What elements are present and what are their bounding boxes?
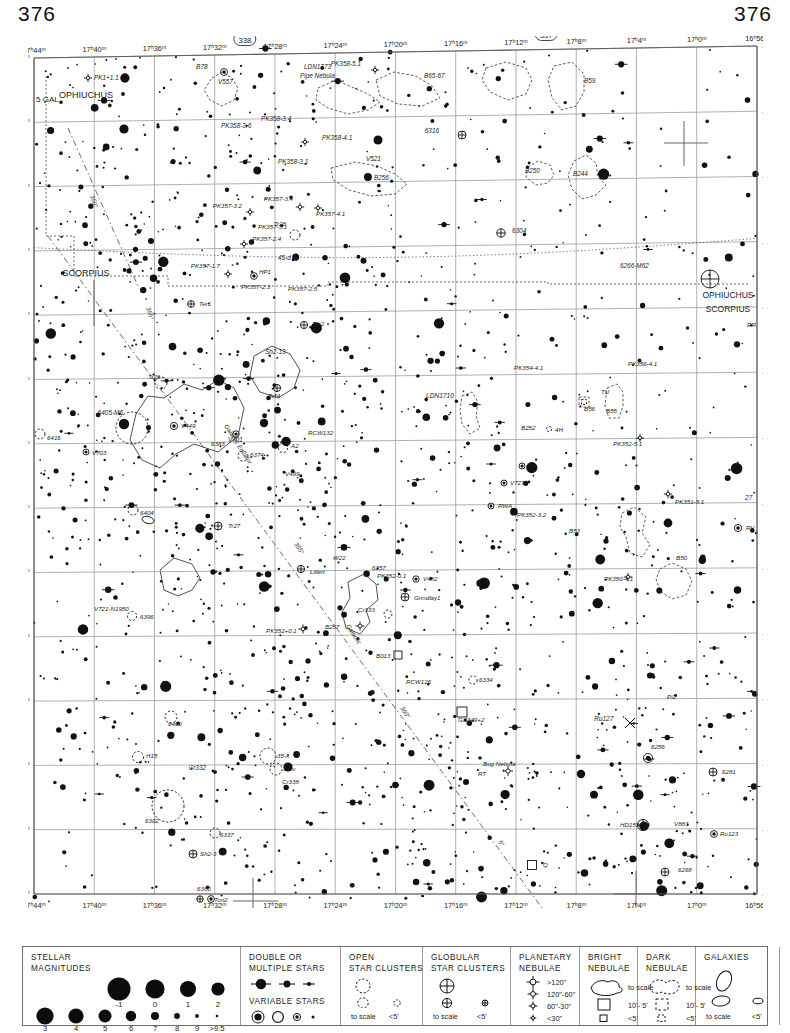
svg-text:-32°: -32° xyxy=(762,368,763,377)
svg-text:FV: FV xyxy=(528,462,537,469)
svg-text:6256: 6256 xyxy=(651,743,665,750)
svg-text:17ʰ36ᵐ: 17ʰ36ᵐ xyxy=(143,901,167,908)
svg-text:PK356-4.1: PK356-4.1 xyxy=(628,360,657,367)
svg-text:-29°: -29° xyxy=(28,183,30,192)
open-cluster-symbols xyxy=(349,978,415,1008)
svg-text:17ʰ16ᵐ: 17ʰ16ᵐ xyxy=(444,901,468,908)
svg-text:PK354-4.1: PK354-4.1 xyxy=(514,364,543,371)
svg-text:>9.5: >9.5 xyxy=(210,1024,225,1032)
svg-text:V883: V883 xyxy=(674,820,689,827)
svg-text:120"-60": 120"-60" xyxy=(547,990,576,999)
legend-title-line2: STAR CLUSTERS xyxy=(431,964,503,975)
svg-text:V449: V449 xyxy=(181,422,196,429)
legend-title-line2: NEBULAE xyxy=(588,964,630,975)
svg-text:17ʰ36ᵐ: 17ʰ36ᵐ xyxy=(143,44,167,53)
svg-text:PK352-0.1: PK352-0.1 xyxy=(377,572,406,579)
svg-text:PK357-1.7: PK357-1.7 xyxy=(191,262,221,269)
svg-text:A2: A2 xyxy=(290,442,299,449)
svg-text:6266-M62: 6266-M62 xyxy=(620,262,649,269)
legend-galaxies: GALAXIES to scale <5' xyxy=(696,947,780,1025)
svg-text:PK352+0.1: PK352+0.1 xyxy=(266,627,297,634)
svg-text:17ʰ4ᵐ: 17ʰ4ᵐ xyxy=(627,901,646,908)
svg-text:9: 9 xyxy=(195,1024,199,1032)
svg-text:6: 6 xyxy=(129,1024,133,1032)
svg-text:SCORPIUS: SCORPIUS xyxy=(706,304,751,314)
svg-text:Bug Nebula: Bug Nebula xyxy=(483,760,516,767)
svg-text:6396: 6396 xyxy=(140,613,154,620)
svg-text:B244: B244 xyxy=(573,170,588,177)
legend: STELLAR MAGNITUDES -10123456789>9.5 DOUB… xyxy=(22,946,768,1026)
legend-title: GALAXIES xyxy=(704,953,772,964)
svg-text:PK358-4.1: PK358-4.1 xyxy=(322,134,353,141)
svg-text:6383: 6383 xyxy=(211,440,225,447)
svg-text:6316: 6316 xyxy=(425,127,440,134)
svg-text:-28°: -28° xyxy=(28,118,30,127)
svg-text:4: 4 xyxy=(74,1024,78,1032)
svg-text:6404: 6404 xyxy=(140,509,154,516)
svg-text:34-υ: 34-υ xyxy=(283,765,296,772)
svg-text:W22: W22 xyxy=(333,554,346,561)
svg-text:-40°: -40° xyxy=(28,890,30,899)
svg-text:PK351-5.1: PK351-5.1 xyxy=(675,498,704,505)
legend-small-label: <5' xyxy=(389,1012,399,1021)
svg-text:-32°: -32° xyxy=(28,376,30,385)
svg-text:<5': <5' xyxy=(686,1014,696,1023)
svg-text:<30": <30" xyxy=(547,1014,563,1023)
legend-title-line1: STELLAR xyxy=(31,953,233,964)
variable-star-symbols xyxy=(249,1009,335,1025)
legend-scale-label: to scale xyxy=(351,1012,376,1021)
svg-text:V721-N1950: V721-N1950 xyxy=(94,605,129,612)
svg-text:17ʰ32ᵐ: 17ʰ32ᵐ xyxy=(203,43,227,52)
svg-text:PK357-2.4: PK357-2.4 xyxy=(252,235,282,242)
legend-globular-clusters: GLOBULAR STAR CLUSTERS to scale <5' xyxy=(423,947,511,1025)
legend-title-line2: MAGNITUDES xyxy=(31,964,233,975)
svg-text:-27°: -27° xyxy=(28,54,30,63)
svg-text:Pi2: Pi2 xyxy=(667,693,677,700)
svg-text:TU: TU xyxy=(601,388,610,395)
svg-text:6400: 6400 xyxy=(168,720,182,727)
svg-text:V727: V727 xyxy=(510,479,525,486)
svg-text:Ter4: Ter4 xyxy=(268,392,281,399)
svg-text:Sh2-3: Sh2-3 xyxy=(200,850,217,857)
magnitude-scale-svg: -10123456789>9.5 xyxy=(31,974,243,1032)
svg-text:RR: RR xyxy=(747,321,756,328)
legend-title-line1: GLOBULAR xyxy=(431,953,503,964)
svg-text:Ter2: Ter2 xyxy=(312,320,325,327)
svg-text:-30°: -30° xyxy=(762,238,763,247)
svg-text:-1: -1 xyxy=(115,1000,123,1009)
svg-text:PK352-3.2: PK352-3.2 xyxy=(517,511,547,518)
svg-text:Lillert: Lillert xyxy=(310,568,325,575)
svg-text:27: 27 xyxy=(744,494,753,501)
legend-bright-nebulae: BRIGHT NEBULAE to scale10'- 5'<5' xyxy=(580,947,638,1025)
globular-cluster-symbols xyxy=(431,978,503,1008)
svg-text:-36°: -36° xyxy=(28,633,30,642)
svg-text:PK357-4.1: PK357-4.1 xyxy=(316,210,345,217)
sky-map[interactable]: 350°355°Galactic Equator355°Galactic360°… xyxy=(28,36,763,908)
dark-nebula-symbols: to scale10'- 5'<5' xyxy=(646,976,688,1024)
svg-text:6281: 6281 xyxy=(722,768,736,775)
legend-planetary-nebulae: PLANETARY NEBULAE >120"120"-60"60"-30"<3… xyxy=(511,947,580,1025)
bright-nebula-symbols: to scale10'- 5'<5' xyxy=(588,976,630,1024)
svg-text:-29°: -29° xyxy=(762,172,763,181)
svg-text:6357: 6357 xyxy=(372,564,386,571)
svg-text:HP1: HP1 xyxy=(259,268,271,275)
legend-title-line2: MULTIPLE STARS xyxy=(249,964,333,975)
svg-text:Ter1: Ter1 xyxy=(199,300,211,307)
svg-text:Pipe Nebula: Pipe Nebula xyxy=(300,72,335,80)
svg-text:6304: 6304 xyxy=(512,227,527,234)
svg-text:V482: V482 xyxy=(423,575,438,582)
svg-text:Cr332: Cr332 xyxy=(189,764,207,771)
svg-text:PK357-3.4: PK357-3.4 xyxy=(264,195,294,202)
svg-text:17ʰ32ᵐ: 17ʰ32ᵐ xyxy=(203,901,227,908)
svg-text:6374: 6374 xyxy=(250,451,264,458)
svg-text:35-λ: 35-λ xyxy=(277,752,289,759)
page-number-left: 376 xyxy=(18,2,56,26)
svg-text:45-d: 45-d xyxy=(278,254,291,261)
svg-text:B53: B53 xyxy=(569,527,581,534)
svg-text:B55: B55 xyxy=(606,407,618,414)
svg-text:Grindlay1: Grindlay1 xyxy=(414,594,440,601)
svg-text:17ʰ16ᵐ: 17ʰ16ᵐ xyxy=(444,39,468,48)
svg-text:-38°: -38° xyxy=(762,760,763,769)
svg-text:6416: 6416 xyxy=(47,434,61,441)
svg-text:PK352-5.1: PK352-5.1 xyxy=(613,440,642,447)
